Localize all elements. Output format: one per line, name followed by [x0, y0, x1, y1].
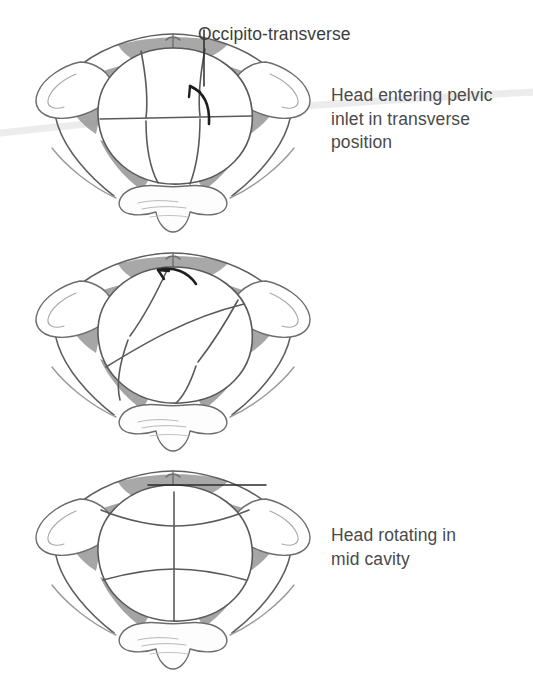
sacrum-coccyx	[119, 622, 227, 669]
callout-occipito-transverse: Occipito-transverse	[198, 24, 351, 45]
fetal-skull	[98, 485, 252, 621]
fetal-head-rotation-figure: Occipito-transverse Head entering pelvic…	[0, 0, 533, 673]
panel-3-illustration	[0, 452, 533, 673]
panel-occipito-anterior: Occipito-anterior Head rotated 90° to ex…	[0, 452, 533, 673]
panel-occipito-transverse: Occipito-transverse Head entering pelvic…	[0, 0, 533, 240]
sacrum-coccyx	[119, 404, 227, 451]
panel-2-illustration	[0, 228, 533, 460]
sacrum-coccyx	[119, 185, 227, 232]
fetal-skull	[98, 267, 252, 403]
panel-mid-cavity-rotation: Head rotating in mid cavity	[0, 228, 533, 460]
caption-panel-1: Head entering pelvic inlet in transverse…	[331, 84, 493, 155]
